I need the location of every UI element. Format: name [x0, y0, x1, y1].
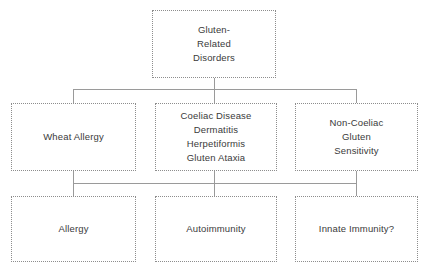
node-label-line: Gluten	[342, 130, 371, 144]
node-label-line: Coeliac Disease	[181, 109, 252, 123]
node-autoimmunity: Autoimmunity	[155, 196, 277, 262]
node-label-line: Dermatitis	[194, 123, 238, 137]
node-label-line: Autoimmunity	[186, 222, 245, 236]
node-label-line: Disorders	[193, 51, 235, 65]
node-label-line: Innate Immunity?	[319, 222, 394, 236]
node-label-line: Related	[197, 37, 231, 51]
node-gluten-related-disorders: Gluten- Related Disorders	[152, 10, 276, 78]
node-non-coeliac-gluten-sensitivity: Non-Coeliac Gluten Sensitivity	[295, 103, 418, 171]
node-label-line: Allergy	[58, 222, 88, 236]
node-innate-immunity: Innate Immunity?	[295, 196, 418, 262]
node-label-line: Gluten-	[198, 23, 230, 37]
node-label-line: Wheat Allergy	[43, 130, 104, 144]
node-label-line: Sensitivity	[334, 144, 378, 158]
node-label-line: Herpetiformis	[187, 137, 245, 151]
gluten-related-disorders-flowchart: Gluten- Related Disorders Wheat Allergy …	[0, 0, 429, 275]
node-allergy: Allergy	[11, 196, 136, 262]
node-label-line: Gluten Ataxia	[187, 151, 245, 165]
node-wheat-allergy: Wheat Allergy	[11, 103, 136, 171]
node-label-line: Non-Coeliac	[330, 116, 384, 130]
node-coeliac-disease: Coeliac Disease Dermatitis Herpetiformis…	[155, 103, 277, 171]
